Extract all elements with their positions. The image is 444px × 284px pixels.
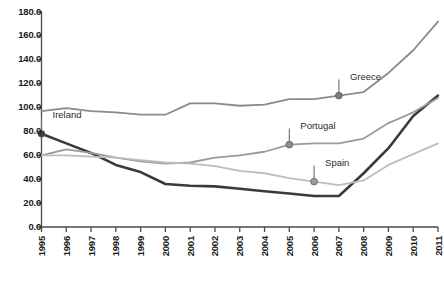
series-label-ireland: Ireland [53,109,82,120]
series-label-portugal: Portugal [300,120,335,131]
series-label-greece: Greece [350,71,381,82]
series-label-spain: Spain [325,157,349,168]
